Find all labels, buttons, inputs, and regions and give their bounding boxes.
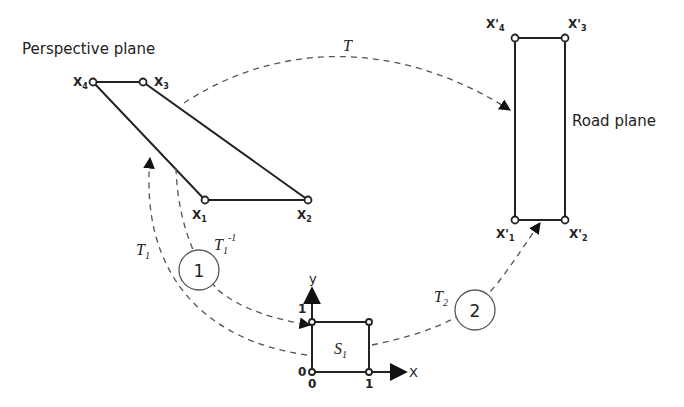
unit-square: y X 1 0 0 1 S1 [298, 271, 418, 391]
label-t1-inverse: T1-1 [214, 232, 236, 256]
label-t1: T1 [136, 241, 150, 261]
road-plane: X'4 X'3 X'1 X'2 Road plane [486, 17, 656, 243]
road-plane-label: Road plane [572, 112, 656, 130]
vertex-x1 [202, 197, 209, 204]
vertex-x3-prime [562, 35, 569, 42]
step-1-number: 1 [194, 261, 205, 281]
tick-y0: 0 [298, 365, 306, 379]
y-axis-label: y [309, 271, 317, 286]
diagram-canvas: Perspective plane X4 X3 X1 X2 X'4 X'3 X'… [0, 0, 684, 407]
label-x4-prime: X'4 [486, 17, 505, 33]
perspective-plane: Perspective plane X4 X3 X1 X2 [22, 40, 312, 224]
vertex-x2-prime [562, 217, 569, 224]
tick-x1: 1 [365, 377, 373, 391]
vertex-x4-prime [512, 35, 519, 42]
label-x1-prime: X'1 [496, 227, 515, 243]
arc-t [184, 57, 510, 110]
tick-x0: 0 [308, 377, 316, 391]
label-t: T [343, 37, 353, 54]
step-2: 2 [455, 290, 495, 330]
tick-y1: 1 [298, 302, 306, 316]
label-x2: X2 [297, 208, 312, 224]
x-axis-label: X [409, 365, 418, 380]
arc-t1 [149, 158, 307, 355]
vertex-x2 [305, 197, 312, 204]
label-x2-prime: X'2 [569, 227, 588, 243]
vertex-x1-prime [512, 217, 519, 224]
perspective-plane-label: Perspective plane [22, 40, 155, 58]
perspective-quadrilateral [93, 82, 308, 200]
vertex-x4 [90, 79, 97, 86]
arc-t1-inv-lower [218, 290, 310, 325]
arc-t2 [372, 223, 540, 345]
step-1: 1 [179, 250, 219, 290]
label-x1: X1 [192, 208, 207, 224]
step-2-number: 2 [470, 301, 481, 321]
vertex-s1-01 [309, 319, 315, 325]
label-x4: X4 [73, 75, 88, 91]
label-x3: X3 [154, 75, 169, 91]
road-rectangle [515, 38, 565, 220]
vertex-x3 [140, 79, 147, 86]
label-x3-prime: X'3 [568, 17, 587, 33]
label-t2: T2 [434, 288, 448, 308]
s1-label: S1 [334, 340, 347, 360]
vertex-s1-11 [366, 319, 372, 325]
vertex-s1-00 [309, 369, 315, 375]
vertex-s1-10 [366, 369, 372, 375]
